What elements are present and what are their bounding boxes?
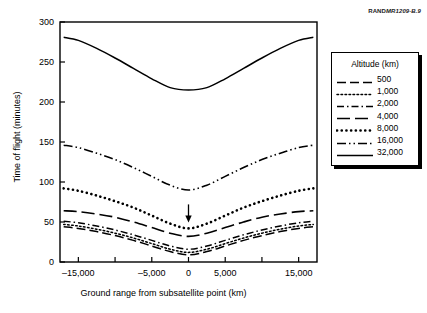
y-tick-label: 250 (10, 57, 54, 67)
y-tick-label: 50 (10, 217, 54, 227)
x-axis-title: Ground range from subsatellite point (km… (0, 288, 327, 298)
series-line-32000 (64, 37, 314, 90)
series-line-2000 (64, 221, 314, 249)
figure-container: RANDMR1209-B.9 Time of flight (minutes) … (0, 0, 427, 313)
legend-item-label: 8,000 (377, 123, 398, 133)
arrow-head (185, 215, 191, 222)
legend-line-sample (336, 135, 374, 146)
annotation-arrow (185, 204, 191, 222)
legend-line-sample (336, 110, 374, 121)
legend-item-label: 4,000 (377, 111, 398, 121)
legend-item: 2,000 (336, 97, 414, 109)
legend-line-sample (336, 74, 374, 85)
legend-item-label: 2,000 (377, 98, 398, 108)
y-tick-label: 150 (10, 137, 54, 147)
x-tick-label: –5,000 (138, 268, 166, 278)
legend-line-sample (336, 98, 374, 109)
legend-item: 1,000 (336, 85, 414, 97)
y-tick-label: 300 (10, 17, 54, 27)
legend-item: 4,000 (336, 110, 414, 122)
legend-entries: 5001,0002,0004,0008,00016,00032,000 (336, 73, 414, 158)
legend-item: 32,000 (336, 146, 414, 158)
x-tick-label: 5,000 (214, 268, 237, 278)
legend-line-sample (336, 147, 374, 158)
y-tick-label: 200 (10, 97, 54, 107)
y-tick-label: 0 (10, 257, 54, 267)
legend-item-label: 500 (377, 74, 391, 84)
legend-item-label: 32,000 (377, 147, 403, 157)
series-line-500 (64, 227, 314, 255)
legend-line-sample (336, 122, 374, 133)
chart-legend: Altitude (km) 5001,0002,0004,0008,00016,… (331, 52, 419, 166)
x-tick-label: 0 (186, 268, 191, 278)
legend-item: 500 (336, 73, 414, 85)
legend-item: 16,000 (336, 134, 414, 146)
legend-item-label: 1,000 (377, 86, 398, 96)
legend-item-label: 16,000 (377, 135, 403, 145)
x-tick-label: –15,000 (62, 268, 95, 278)
legend-title: Altitude (km) (336, 59, 414, 69)
legend-item: 8,000 (336, 122, 414, 134)
y-tick-label: 100 (10, 177, 54, 187)
series-line-16000 (64, 145, 314, 190)
x-tick-label: 15,000 (285, 268, 313, 278)
legend-line-sample (336, 86, 374, 97)
